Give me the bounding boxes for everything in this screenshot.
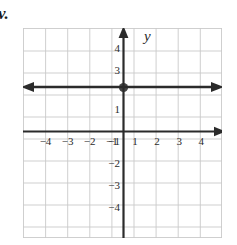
plotted-point-0-2 — [119, 83, 128, 92]
coordinate-grid-svg — [23, 28, 222, 238]
graph-figure: v. — [0, 0, 237, 245]
coordinate-plane: y x −4 −3 −2 −1 1 2 3 4 1 3 4 −1 −2 −3 −… — [23, 28, 222, 238]
y-tick-4: 4 — [106, 43, 120, 54]
y-tick-minus-3: −3 — [106, 180, 120, 191]
x-tick-minus-2: −2 — [82, 136, 98, 147]
x-tick-3: 3 — [171, 136, 187, 147]
y-tick-1: 1 — [106, 104, 120, 115]
x-tick-1: 1 — [127, 136, 143, 147]
problem-label: v. — [0, 4, 8, 24]
x-tick-4: 4 — [193, 136, 209, 147]
y-tick-minus-4: −4 — [106, 202, 120, 213]
x-tick-minus-4: −4 — [38, 136, 54, 147]
y-tick-minus-1: −1 — [106, 136, 120, 147]
x-tick-minus-3: −3 — [60, 136, 76, 147]
y-axis-label: y — [144, 28, 151, 45]
y-tick-minus-2: −2 — [106, 158, 120, 169]
x-tick-2: 2 — [149, 136, 165, 147]
y-axis — [119, 28, 129, 238]
y-tick-3: 3 — [106, 65, 120, 76]
